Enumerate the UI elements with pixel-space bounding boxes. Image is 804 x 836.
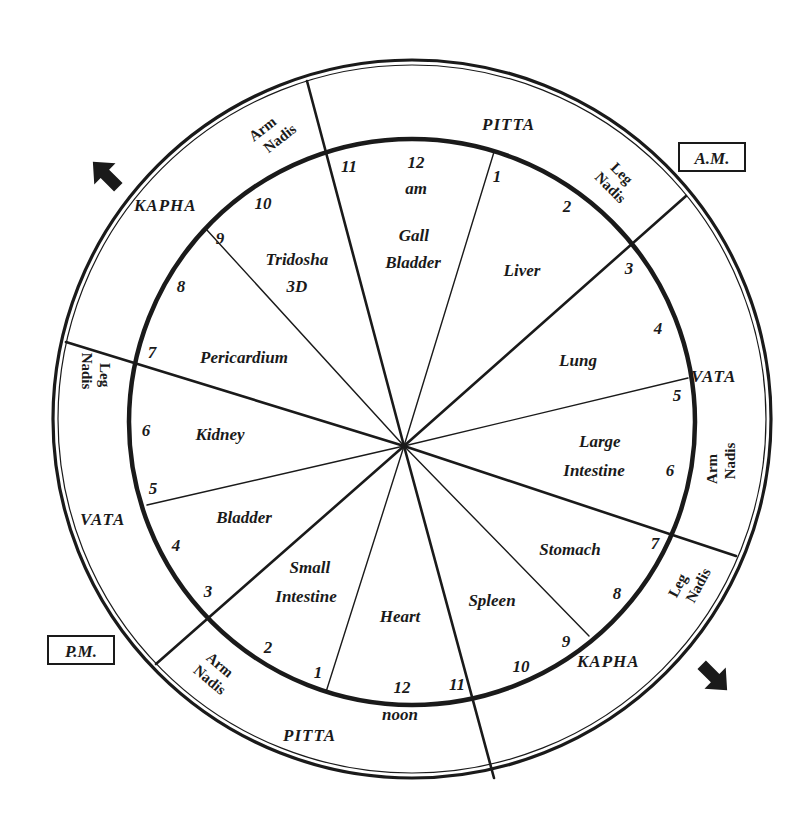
hour-am-5: 5 — [673, 386, 682, 405]
hour-am-2: 2 — [562, 197, 572, 216]
hour-12-noon: 12 — [394, 678, 412, 697]
organ-large-intestine: Large Intestine — [562, 432, 625, 480]
hour-noon-label: noon — [382, 705, 418, 724]
pm-label-box: P.M. — [48, 636, 114, 664]
hour-pm-10: 10 — [255, 194, 273, 213]
hour-am-9: 9 — [562, 632, 571, 651]
hour-pm-9: 9 — [216, 229, 225, 248]
hour-am-10: 10 — [513, 657, 531, 676]
dosha-pitta-bottom: PITTA — [282, 726, 336, 745]
hour-am-8: 8 — [613, 584, 622, 603]
nadi-arm-top-left: Arm Nadis — [246, 106, 300, 158]
organ-clock-diagram: Gall Bladder Liver Lung Large Intestine … — [0, 0, 804, 836]
hour-12-am: 12 — [408, 153, 426, 172]
organ-pericardium: Pericardium — [199, 348, 288, 367]
am-label-box: A.M. — [679, 143, 745, 171]
nadi-arm-right: Arm Nadis — [704, 443, 738, 484]
dosha-vata-right: VATA — [691, 367, 736, 386]
organ-lung: Lung — [558, 351, 597, 370]
dosha-kapha-top-left: KAPHA — [133, 196, 197, 215]
hour-pm-11: 11 — [341, 157, 357, 176]
hour-pm-3: 3 — [203, 582, 213, 601]
dosha-kapha-bottom-right: KAPHA — [576, 652, 640, 671]
am-label: A.M. — [694, 149, 730, 168]
nadi-leg-top-right: Leg Nadis — [592, 156, 642, 206]
hour-am-6: 6 — [666, 461, 675, 480]
organ-tridosha-3d: Tridosha 3D — [266, 250, 333, 296]
organ-small-intestine: Small Intestine — [274, 558, 337, 606]
hour-pm-7: 7 — [148, 343, 158, 362]
hour-am-1: 1 — [493, 167, 502, 186]
organ-spleen: Spleen — [468, 591, 515, 610]
nadi-arm-bottom-left: Arm Nadis — [191, 648, 241, 698]
organ-liver: Liver — [503, 261, 541, 280]
hour-am-label: am — [405, 179, 427, 198]
hour-pm-8: 8 — [177, 277, 186, 296]
organ-heart: Heart — [379, 607, 422, 626]
hour-pm-1: 1 — [314, 663, 323, 682]
hour-pm-5: 5 — [149, 479, 158, 498]
hour-pm-4: 4 — [171, 536, 181, 555]
hour-am-7: 7 — [651, 534, 661, 553]
organ-stomach: Stomach — [539, 540, 600, 559]
am-hour-numbers: 12 am 1 2 3 4 5 6 7 8 9 10 11 — [405, 153, 682, 694]
organ-gall-bladder: Gall Bladder — [384, 226, 441, 272]
dosha-pitta-top: PITTA — [481, 115, 535, 134]
dosha-labels: PITTA VATA KAPHA PITTA VATA KAPHA — [80, 115, 736, 745]
hour-am-11: 11 — [449, 675, 465, 694]
dosha-vata-left: VATA — [80, 510, 125, 529]
clockwise-arrow-icon — [691, 654, 738, 701]
nadi-leg-bottom-right: Leg Nadis — [665, 557, 714, 609]
organ-bladder: Bladder — [215, 508, 272, 527]
organ-kidney: Kidney — [194, 425, 245, 444]
hour-am-4: 4 — [653, 319, 663, 338]
hour-pm-2: 2 — [263, 638, 273, 657]
hour-pm-6: 6 — [142, 421, 151, 440]
hour-am-3: 3 — [624, 259, 634, 278]
clockwise-arrow-icon — [82, 151, 129, 198]
pm-label: P.M. — [64, 642, 97, 661]
nadi-leg-left: Leg Nadis — [79, 353, 113, 391]
